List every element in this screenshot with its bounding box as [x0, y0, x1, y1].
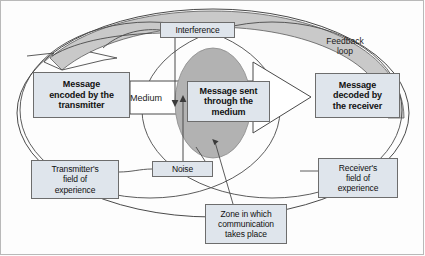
node-receivers-field-of-experience[interactable]: Receiver's field of experience [318, 158, 398, 198]
node-label: Zone in which communication takes place [206, 209, 286, 239]
node-message-encoded-by-transmitter[interactable]: Message encoded by the transmitter [33, 72, 130, 118]
node-label: Transmitter's field of experience [32, 164, 118, 194]
label-feedback-loop: Feedback loop [320, 37, 370, 57]
node-label: Interference [161, 25, 234, 35]
node-noise[interactable]: Noise [152, 161, 213, 177]
node-label: Message decoded by the receiver [316, 80, 399, 112]
diagram-canvas: Message encoded by the transmitter Messa… [0, 0, 425, 256]
node-interference[interactable]: Interference [160, 22, 235, 38]
node-message-decoded-by-receiver[interactable]: Message decoded by the receiver [315, 73, 400, 118]
transmitter-field-to-noise-line [119, 169, 152, 172]
node-transmitters-field-of-experience[interactable]: Transmitter's field of experience [31, 160, 119, 199]
label-medium: Medium [120, 93, 172, 103]
node-label: Receiver's field of experience [319, 163, 397, 193]
node-label: Message sent through the medium [188, 86, 269, 118]
node-zone-in-which-communication-takes-place[interactable]: Zone in which communication takes place [205, 204, 287, 244]
node-label: Message encoded by the transmitter [34, 79, 129, 111]
node-label: Noise [153, 164, 212, 174]
node-message-sent-through-medium[interactable]: Message sent through the medium [187, 81, 270, 122]
